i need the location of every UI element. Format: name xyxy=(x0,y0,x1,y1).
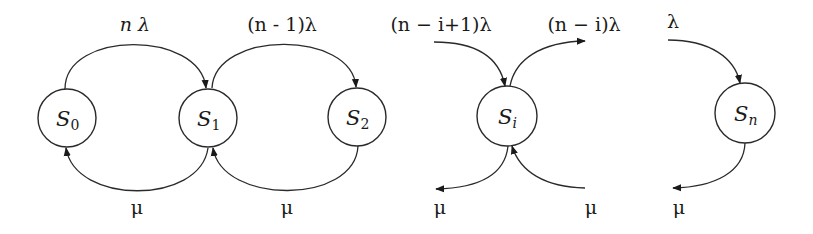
edge-s2-to-s1 xyxy=(213,146,358,191)
edge-into-si-birth xyxy=(434,42,505,86)
rate-label-s0-s1: n λ xyxy=(120,13,150,35)
edge-s1-to-s0 xyxy=(66,148,208,191)
diagram-svg: S0 S1 S2 Si Sn n λ (n - 1)λ (n − i+1)λ (… xyxy=(0,0,813,234)
node-s2: S2 xyxy=(328,88,386,146)
rate-label-s1-s2: (n - 1)λ xyxy=(247,13,317,35)
mu-label-out-sn: μ xyxy=(673,196,685,218)
node-s0: S0 xyxy=(38,89,96,147)
rate-label-into-si: (n − i+1)λ xyxy=(390,13,491,35)
mu-label-s2-s1: μ xyxy=(281,196,293,218)
edge-into-sn-birth xyxy=(668,40,740,83)
rate-label-out-si: (n − i)λ xyxy=(547,13,620,35)
edge-s1-to-s2 xyxy=(212,44,356,88)
node-sn: Sn xyxy=(715,83,775,143)
state-diagram: S0 S1 S2 Si Sn n λ (n - 1)λ (n − i+1)λ (… xyxy=(0,0,813,234)
edge-s0-to-s1 xyxy=(65,45,206,89)
mu-label-into-si: μ xyxy=(585,196,597,218)
mu-label-out-si: μ xyxy=(434,196,446,218)
edge-out-si-birth xyxy=(510,41,585,86)
node-s1: S1 xyxy=(179,89,237,147)
edge-out-sn-death xyxy=(673,143,745,188)
rate-label-into-sn: λ xyxy=(667,10,679,32)
node-si: Si xyxy=(477,86,537,146)
edge-out-si-death xyxy=(436,146,508,189)
edge-into-si-death xyxy=(512,146,585,188)
mu-label-s1-s0: μ xyxy=(131,196,143,218)
edges xyxy=(65,40,745,191)
